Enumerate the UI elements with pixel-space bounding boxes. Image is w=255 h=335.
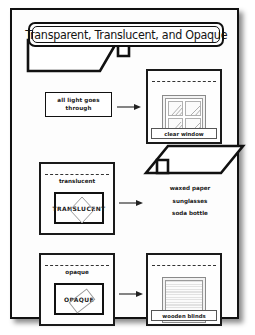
panel-dashed-rule xyxy=(152,81,216,82)
translucent-panel: translucent TRANSLUCENT xyxy=(39,162,115,235)
window-pane xyxy=(168,101,184,117)
slide-sheet: Transparent, Translucent, and Opaque all… xyxy=(10,8,239,319)
opaque-caption: wooden blinds xyxy=(162,313,205,319)
transparent-description-line-2: through xyxy=(66,105,92,113)
list-item: sunglasses xyxy=(150,195,230,208)
panel-dashed-rule xyxy=(45,174,109,175)
opaque-panel: opaque OPAQUE xyxy=(39,253,115,326)
panel-dashed-rule xyxy=(152,265,216,266)
opaque-word: OPAQUE xyxy=(64,296,94,303)
opaque-word-frame: OPAQUE xyxy=(54,283,104,315)
transparent-caption-bar: clear window xyxy=(151,128,217,139)
transparent-result-panel: clear window xyxy=(146,69,222,144)
list-item: waxed paper xyxy=(150,182,230,195)
title-banner-inner: Transparent, Translucent, and Opaque xyxy=(32,26,220,43)
slide-canvas: Transparent, Translucent, and Opaque all… xyxy=(0,0,255,335)
page-title: Transparent, Translucent, and Opaque xyxy=(25,28,227,42)
translucent-word: TRANSLUCENT xyxy=(52,205,105,212)
opaque-panel-title: opaque xyxy=(41,269,113,275)
arrow-right-icon-opaque xyxy=(118,289,144,299)
panel-dashed-rule xyxy=(45,265,109,266)
opaque-result-panel: wooden blinds xyxy=(146,253,222,326)
opaque-caption-bar: wooden blinds xyxy=(151,310,217,321)
title-banner: Transparent, Translucent, and Opaque xyxy=(28,22,224,47)
light-beam-parallelogram-translucent xyxy=(144,143,246,183)
window-pane xyxy=(185,101,201,117)
transparent-description-line-1: all light goes xyxy=(57,97,99,105)
translucent-panel-title: translucent xyxy=(41,178,113,184)
arrow-right-icon-transparent xyxy=(116,102,142,112)
transparent-description-box: all light goes through xyxy=(45,92,112,117)
translucent-examples-list: waxed paper sunglasses soda bottle xyxy=(150,182,230,220)
list-item: soda bottle xyxy=(150,207,230,220)
transparent-caption: clear window xyxy=(164,131,203,137)
arrow-right-icon-translucent xyxy=(118,198,144,208)
translucent-word-frame: TRANSLUCENT xyxy=(54,192,104,224)
